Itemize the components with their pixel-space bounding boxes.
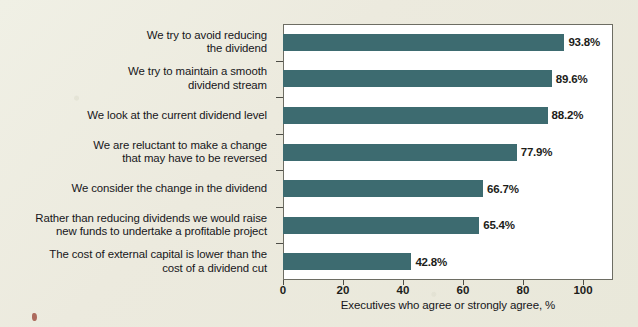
bar-value-label: 42.8% bbox=[415, 256, 447, 268]
bar[interactable] bbox=[283, 180, 483, 197]
y-axis-tick bbox=[276, 61, 283, 62]
x-axis-tick-label: 100 bbox=[573, 284, 592, 296]
x-axis-tick-label: 80 bbox=[517, 284, 530, 296]
bar[interactable] bbox=[283, 144, 517, 161]
bar-row[interactable]: 77.9% bbox=[283, 134, 613, 171]
chart-figure: We try to avoid reducingthe dividendWe t… bbox=[0, 0, 638, 327]
bar-row[interactable]: 65.4% bbox=[283, 207, 613, 244]
y-axis-tick bbox=[276, 207, 283, 208]
bar[interactable] bbox=[283, 217, 479, 234]
bar-value-label: 66.7% bbox=[487, 183, 519, 195]
category-label-row: Rather than reducing dividends we would … bbox=[0, 207, 276, 244]
category-label-row: We consider the change in the dividend bbox=[0, 170, 276, 207]
bar[interactable] bbox=[283, 70, 552, 87]
category-label: We consider the change in the dividend bbox=[72, 182, 267, 195]
bar-row[interactable]: 89.6% bbox=[283, 61, 613, 98]
page-artifact-mark bbox=[32, 313, 37, 321]
bar-row[interactable]: 42.8% bbox=[283, 243, 613, 280]
category-label: We try to avoid reducingthe dividend bbox=[147, 29, 267, 56]
bar-value-label: 89.6% bbox=[556, 73, 588, 85]
bar-value-label: 65.4% bbox=[483, 219, 515, 231]
x-axis-tick-label: 60 bbox=[457, 284, 470, 296]
bar-value-label: 77.9% bbox=[521, 146, 553, 158]
category-axis-labels: We try to avoid reducingthe dividendWe t… bbox=[0, 24, 276, 280]
category-label-row: We are reluctant to make a changethat ma… bbox=[0, 134, 276, 171]
y-axis-tick bbox=[276, 170, 283, 171]
category-label-row: We try to avoid reducingthe dividend bbox=[0, 24, 276, 61]
bar-value-label: 88.2% bbox=[552, 109, 584, 121]
y-axis-tick bbox=[276, 243, 283, 244]
category-label: The cost of external capital is lower th… bbox=[49, 248, 267, 275]
category-label: We try to maintain a smoothdividend stre… bbox=[128, 65, 267, 92]
category-label-row: We try to maintain a smoothdividend stre… bbox=[0, 61, 276, 98]
bar-row[interactable]: 93.8% bbox=[283, 24, 613, 61]
bar-row[interactable]: 66.7% bbox=[283, 170, 613, 207]
category-label: Rather than reducing dividends we would … bbox=[35, 212, 267, 239]
y-axis-tick bbox=[276, 134, 283, 135]
x-axis-title: Executives who agree or strongly agree, … bbox=[283, 299, 613, 311]
x-axis-tick-labels: 020406080100 bbox=[283, 284, 613, 300]
category-label: We are reluctant to make a changethat ma… bbox=[93, 139, 267, 166]
bar-row[interactable]: 88.2% bbox=[283, 97, 613, 134]
x-axis-tick-label: 20 bbox=[337, 284, 350, 296]
x-axis-tick-label: 0 bbox=[280, 284, 286, 296]
category-label-row: We look at the current dividend level bbox=[0, 97, 276, 134]
bar[interactable] bbox=[283, 107, 548, 124]
x-axis-tick-label: 40 bbox=[397, 284, 410, 296]
y-axis-tick bbox=[276, 97, 283, 98]
bar[interactable] bbox=[283, 253, 411, 270]
category-label: We look at the current dividend level bbox=[87, 109, 267, 122]
bar-rows: 93.8%89.6%88.2%77.9%66.7%65.4%42.8% bbox=[283, 24, 613, 280]
category-label-row: The cost of external capital is lower th… bbox=[0, 243, 276, 280]
bar[interactable] bbox=[283, 34, 564, 51]
bar-value-label: 93.8% bbox=[568, 36, 600, 48]
